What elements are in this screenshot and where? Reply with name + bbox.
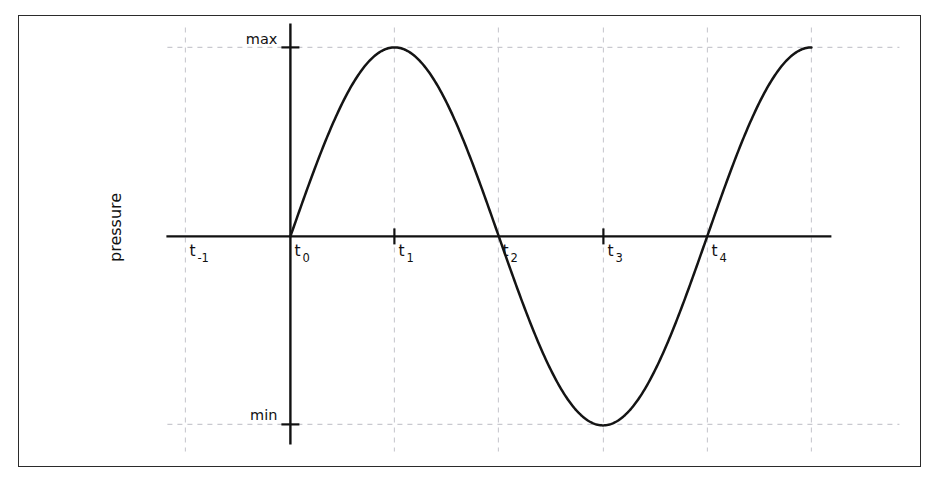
x-tick-label-base: t — [189, 242, 195, 260]
x-tick-label-subscript: 1 — [406, 251, 413, 265]
x-tick-label: t3 — [607, 242, 622, 265]
x-tick-label-base: t — [711, 242, 717, 260]
x-tick-label-base: t — [294, 242, 300, 260]
y-axis-min-label: min — [250, 407, 277, 423]
x-tick-label-base: t — [502, 242, 508, 260]
x-tick-label-subscript: 2 — [510, 251, 517, 265]
x-tick-label: t2 — [502, 242, 517, 265]
figure-root: t-1t0t1t2t3t4 max min pressure — [0, 0, 934, 481]
x-tick-label: t1 — [398, 242, 413, 265]
x-axis-tick-labels: t-1t0t1t2t3t4 — [189, 242, 726, 265]
x-tick-label-subscript: -1 — [197, 251, 208, 265]
x-tick-label: t-1 — [189, 242, 208, 265]
x-tick-label: t0 — [294, 242, 309, 265]
x-tick-label-base: t — [398, 242, 404, 260]
x-tick-label-base: t — [607, 242, 613, 260]
x-tick-label-subscript: 4 — [719, 251, 726, 265]
x-tick-label: t4 — [711, 242, 726, 265]
gridlines-vertical — [185, 27, 811, 451]
figure-frame: t-1t0t1t2t3t4 max min pressure — [18, 15, 921, 467]
y-axis-max-label: max — [246, 31, 278, 47]
pressure-wave-chart: t-1t0t1t2t3t4 max min pressure — [19, 16, 919, 465]
x-tick-label-subscript: 3 — [615, 251, 622, 265]
y-axis-title: pressure — [106, 193, 125, 262]
x-tick-label-subscript: 0 — [302, 251, 309, 265]
